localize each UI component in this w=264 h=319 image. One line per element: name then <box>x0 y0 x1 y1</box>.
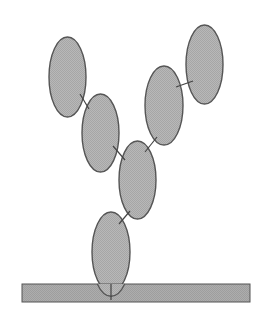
ellipse-base <box>92 212 130 292</box>
surface-bar <box>22 284 250 302</box>
y-shaped-ellipse-diagram <box>0 0 264 319</box>
surface <box>22 284 250 302</box>
ellipse-center <box>119 141 156 219</box>
connector-mid-right-to-center <box>145 137 157 152</box>
ellipse-mid-right <box>145 66 183 145</box>
ellipses <box>49 25 223 292</box>
ellipse-upper-right <box>186 25 223 104</box>
ellipse-upper-left <box>49 37 86 117</box>
